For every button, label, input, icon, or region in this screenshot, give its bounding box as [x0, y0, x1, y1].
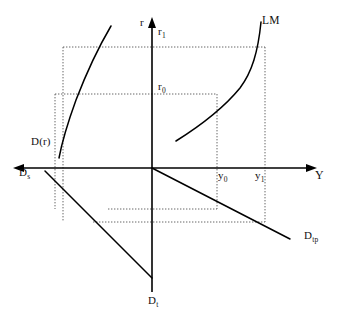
- axis-label-ds-sub: s: [27, 172, 30, 181]
- axis-label-y: Y: [315, 169, 324, 181]
- tick-label-r0-sub: 0: [162, 86, 166, 95]
- arrow-head-up-icon: [148, 17, 156, 28]
- curves-group: [45, 22, 290, 278]
- curve-label-dtp-sub: tp: [312, 235, 318, 244]
- curve-label-dtp: Dtp: [304, 230, 318, 244]
- diagram-root: r r1 r0 LM D(r) Ds y0 y1 Y Dtp Dt: [0, 0, 339, 318]
- tick-label-y0: y0: [218, 170, 228, 184]
- axis-label-dt-sub: t: [156, 300, 158, 309]
- tick-label-y1: y1: [255, 170, 265, 184]
- curve-dr: [59, 26, 111, 158]
- tick-label-r0: r0: [158, 81, 166, 95]
- axes-group: [13, 17, 317, 292]
- diagram-canvas: [0, 0, 339, 318]
- axis-label-ds: Ds: [19, 167, 30, 181]
- tick-label-r1: r1: [158, 26, 166, 40]
- tick-label-r1-sub: 1: [162, 31, 166, 40]
- curve-allocation-line: [45, 171, 152, 278]
- axis-label-ds-base: D: [19, 166, 27, 178]
- curve-label-dtp-base: D: [304, 229, 312, 241]
- tick-label-y0-sub: 0: [224, 175, 228, 184]
- axis-label-dt-base: D: [148, 294, 156, 306]
- curve-label-lm: LM: [262, 15, 280, 27]
- curve-label-dr: D(r): [31, 136, 51, 147]
- axis-label-dt: Dt: [148, 295, 158, 309]
- tick-label-y1-sub: 1: [261, 175, 265, 184]
- axis-label-r: r: [140, 17, 144, 28]
- curve-lm: [176, 22, 261, 141]
